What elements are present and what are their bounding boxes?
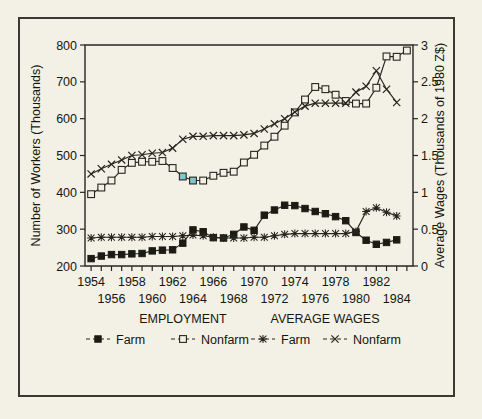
legend-label-2: Farm — [281, 333, 310, 347]
x-axis-tick-label: 1964 — [179, 292, 207, 306]
data-point-employment-farm — [251, 227, 257, 233]
data-point-employment-nonfarm — [190, 177, 197, 184]
data-point-average-wages-farm — [230, 234, 238, 242]
x-axis-tick-label: 1984 — [383, 292, 411, 306]
y2-axis-tick-label: 0 — [421, 260, 428, 274]
x-axis-tick-label: 1976 — [301, 292, 329, 306]
y-axis-tick-label: 400 — [56, 186, 77, 200]
legend-marker-filled-square — [95, 336, 101, 342]
data-point-employment-nonfarm — [149, 158, 156, 165]
data-point-employment-nonfarm — [220, 169, 227, 176]
data-point-employment-nonfarm — [241, 159, 248, 166]
data-point-average-wages-farm — [189, 231, 197, 239]
data-point-average-wages-farm — [138, 233, 146, 241]
data-point-employment-farm — [149, 248, 155, 254]
data-point-employment-nonfarm — [251, 151, 258, 158]
data-point-employment-nonfarm — [322, 86, 329, 93]
data-point-average-wages-nonfarm — [271, 120, 278, 127]
data-point-average-wages-farm — [260, 233, 268, 241]
data-point-employment-nonfarm — [383, 53, 390, 60]
data-point-average-wages-farm — [148, 233, 156, 241]
data-point-employment-nonfarm — [281, 122, 288, 129]
data-point-employment-farm — [363, 237, 369, 243]
x-axis-tick-label: 1970 — [240, 275, 268, 289]
data-point-average-wages-farm — [372, 204, 380, 212]
data-point-employment-nonfarm — [393, 53, 400, 60]
data-point-employment-farm — [98, 253, 104, 259]
data-point-average-wages-farm — [118, 233, 126, 241]
data-point-employment-nonfarm — [353, 100, 360, 107]
series-line-average-wages-farm — [91, 208, 397, 238]
data-point-employment-nonfarm — [108, 177, 115, 184]
y-axis-tick-label: 600 — [56, 112, 77, 126]
data-point-average-wages-farm — [107, 233, 115, 241]
data-point-average-wages-farm — [87, 234, 95, 242]
data-point-average-wages-farm — [199, 232, 207, 240]
data-point-average-wages-nonfarm — [301, 103, 308, 110]
data-point-employment-farm — [180, 240, 186, 246]
data-point-employment-nonfarm — [403, 47, 410, 54]
x-axis-tick-label: 1982 — [362, 275, 390, 289]
data-point-average-wages-farm — [352, 227, 360, 235]
figure-frame: 20030040050060070080000.511.522.53195419… — [18, 17, 455, 397]
y2-axis-tick-label: 1 — [421, 186, 428, 200]
y-axis-tick-label: 500 — [56, 149, 77, 163]
y-axis-tick-label: 200 — [56, 260, 77, 274]
x-axis-tick-label: 1974 — [281, 275, 309, 289]
series-line-average-wages-nonfarm — [91, 71, 397, 174]
data-point-employment-farm — [108, 251, 114, 257]
data-point-employment-farm — [302, 205, 308, 211]
data-point-employment-nonfarm — [302, 96, 309, 103]
x-axis-tick-label: 1956 — [98, 292, 126, 306]
data-point-average-wages-farm — [383, 208, 391, 216]
data-point-employment-farm — [169, 247, 175, 253]
data-point-employment-nonfarm — [230, 168, 237, 175]
data-point-average-wages-farm — [342, 230, 350, 238]
y-axis-tick-label: 700 — [56, 75, 77, 89]
y2-axis-tick-label: 2 — [421, 112, 428, 126]
data-point-employment-farm — [261, 212, 267, 218]
data-point-average-wages-nonfarm — [373, 67, 380, 74]
legend-marker-star — [259, 335, 267, 343]
data-point-employment-nonfarm — [210, 172, 217, 179]
data-point-employment-nonfarm — [128, 159, 135, 166]
data-point-employment-farm — [88, 255, 94, 261]
x-axis-tick-label: 1972 — [261, 292, 289, 306]
data-point-employment-farm — [383, 239, 389, 245]
data-point-average-wages-farm — [321, 230, 329, 238]
data-point-average-wages-farm — [291, 230, 299, 238]
legend-group-employment: EMPLOYMENT — [139, 312, 227, 326]
data-point-employment-farm — [343, 217, 349, 223]
y2-axis-tick-label: 3 — [421, 39, 428, 53]
data-point-employment-nonfarm — [98, 184, 105, 191]
data-point-average-wages-farm — [332, 230, 340, 238]
data-point-average-wages-nonfarm — [108, 161, 115, 168]
data-point-employment-nonfarm — [373, 84, 380, 91]
data-point-average-wages-farm — [209, 233, 217, 241]
data-point-employment-nonfarm — [139, 158, 146, 165]
data-point-employment-farm — [129, 251, 135, 257]
data-point-average-wages-nonfarm — [261, 125, 268, 132]
data-point-employment-nonfarm — [312, 84, 319, 91]
data-point-average-wages-farm — [240, 234, 248, 242]
data-point-average-wages-farm — [220, 234, 228, 242]
data-point-employment-farm — [118, 251, 124, 257]
legend-label-0: Farm — [116, 333, 145, 347]
data-point-average-wages-nonfarm — [179, 136, 186, 143]
legend-label-1: Nonfarm — [201, 333, 249, 347]
data-point-average-wages-nonfarm — [88, 170, 95, 177]
data-point-employment-nonfarm — [118, 166, 125, 173]
data-point-employment-farm — [322, 210, 328, 216]
data-point-average-wages-farm — [270, 232, 278, 240]
series-line-employment-nonfarm — [91, 51, 407, 195]
data-point-average-wages-farm — [311, 230, 319, 238]
x-axis-tick-label: 1958 — [118, 275, 146, 289]
legend-label-3: Nonfarm — [353, 333, 401, 347]
y-axis-tick-label: 300 — [56, 223, 77, 237]
data-point-average-wages-nonfarm — [281, 115, 288, 122]
data-point-employment-farm — [139, 250, 145, 256]
x-axis-tick-label: 1962 — [159, 275, 187, 289]
data-point-employment-farm — [292, 202, 298, 208]
data-point-average-wages-nonfarm — [383, 86, 390, 93]
data-point-average-wages-farm — [179, 232, 187, 240]
